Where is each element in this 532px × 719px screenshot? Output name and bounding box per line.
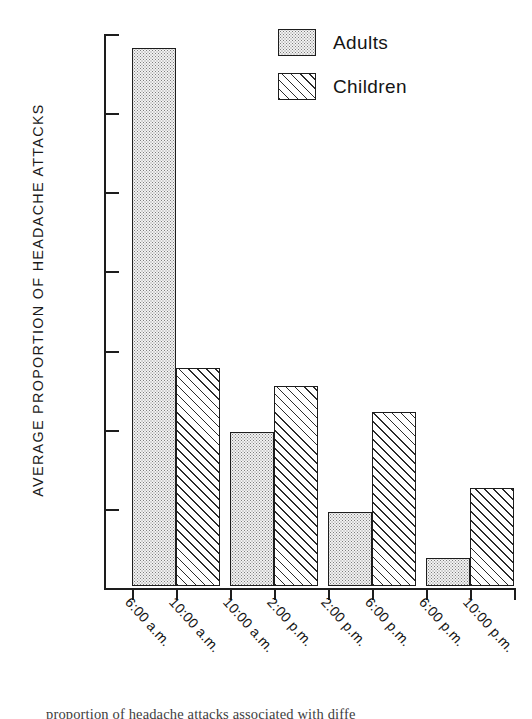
x-tick-label: 2:00 p.m. xyxy=(318,594,370,649)
x-tick-mark xyxy=(514,588,516,600)
bar-adults-4 xyxy=(426,558,470,586)
bar-adults-3 xyxy=(328,512,372,586)
y-tick-mark xyxy=(104,509,119,511)
y-axis-line xyxy=(104,34,106,590)
x-tick-label: 6:00 p.m. xyxy=(362,594,414,649)
bar-children-2 xyxy=(274,386,318,586)
x-tick-label: 10:00 p.m. xyxy=(460,594,517,655)
legend-label-children: Children xyxy=(333,76,407,98)
bar-children-1 xyxy=(176,368,220,586)
y-tick-mark xyxy=(104,588,119,590)
figure-caption: proportion of headache attacks associate… xyxy=(46,706,532,719)
legend: Adults Children xyxy=(278,26,407,114)
legend-item-adults: Adults xyxy=(278,26,407,59)
y-tick-mark xyxy=(104,113,119,115)
plot-area: 0.00.10.20.30.40.50.60.7 6:00 a.m.10:00 … xyxy=(104,34,514,588)
y-tick-mark xyxy=(104,351,119,353)
y-tick-mark xyxy=(104,192,119,194)
y-tick-mark xyxy=(104,34,119,36)
bar-adults-2 xyxy=(230,432,274,586)
legend-label-adults: Adults xyxy=(333,32,388,54)
x-tick-label: 6:00 p.m. xyxy=(416,594,468,649)
figure-bar-chart: AVERAGE PROPORTION OF HEADACHE ATTACKS 0… xyxy=(0,0,532,719)
bar-children-4 xyxy=(470,488,514,586)
bar-children-3 xyxy=(372,412,416,586)
y-axis-title: AVERAGE PROPORTION OF HEADACHE ATTACKS xyxy=(30,20,46,580)
legend-swatch-adults xyxy=(278,29,316,56)
y-tick-mark xyxy=(104,271,119,273)
x-tick-label: 6:00 a.m. xyxy=(122,594,174,649)
legend-item-children: Children xyxy=(278,70,407,103)
legend-swatch-children xyxy=(278,73,316,100)
x-axis-line xyxy=(104,588,516,590)
x-tick-label: 10:00 a.m. xyxy=(166,594,223,655)
bar-adults-1 xyxy=(132,48,176,586)
y-tick-mark xyxy=(104,430,119,432)
